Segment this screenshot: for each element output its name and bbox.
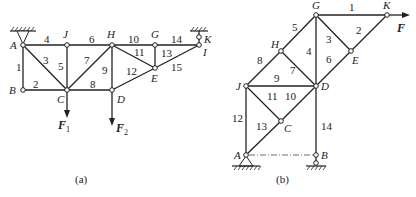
- label-a-C: C: [57, 93, 65, 105]
- node-b-D: [314, 84, 319, 89]
- mlabel-b-9: 9: [274, 72, 280, 84]
- label-a-A: A: [9, 39, 17, 51]
- mlabel-b-11: 11: [267, 90, 278, 102]
- mlabel-a-6: 6: [89, 33, 95, 45]
- label-a-K: K: [203, 33, 212, 45]
- mlabel-a-4: 4: [44, 33, 50, 45]
- node-b-K: [385, 13, 390, 18]
- figure-a: A J H G K I B C D E 1 2 3 4 5 6 7 8 9 10…: [9, 27, 212, 186]
- mlabel-a-14: 14: [171, 33, 183, 45]
- label-b-A: A: [233, 149, 241, 161]
- label-a-J: J: [63, 28, 69, 40]
- label-a-B: B: [9, 84, 16, 96]
- truss-figure: A J H G K I B C D E 1 2 3 4 5 6 7 8 9 10…: [0, 0, 416, 197]
- node-a-B: [21, 88, 26, 93]
- node-b-E: [349, 49, 354, 54]
- mlabel-b-13: 13: [256, 120, 268, 132]
- load-label-f2: F: [115, 121, 124, 135]
- mlabel-b-7: 7: [290, 64, 296, 76]
- mlabel-a-10: 10: [128, 33, 140, 45]
- member-b-3: [316, 15, 351, 51]
- node-a-J: [65, 43, 70, 48]
- caption-a: (a): [75, 173, 88, 186]
- label-b-J: J: [236, 80, 242, 92]
- load-labels-a: F 1 F 2: [57, 118, 128, 137]
- label-b-G: G: [312, 0, 320, 11]
- label-a-G: G: [151, 28, 159, 40]
- mlabel-a-2: 2: [33, 78, 39, 90]
- mlabel-b-10: 10: [285, 90, 297, 102]
- load-label-f1: F: [57, 118, 66, 132]
- node-b-H: [279, 49, 284, 54]
- mlabel-b-3: 3: [326, 33, 332, 45]
- node-b-A: [244, 153, 249, 158]
- node-b-B: [314, 153, 319, 158]
- node-labels-b: G K H E J D C A B: [233, 0, 391, 161]
- label-b-D: D: [320, 80, 329, 92]
- mlabel-a-8: 8: [90, 78, 96, 90]
- label-a-I: I: [202, 46, 208, 58]
- mlabel-a-13: 13: [161, 47, 173, 59]
- node-a-G: [153, 43, 158, 48]
- mlabel-a-5: 5: [58, 60, 64, 72]
- label-a-H: H: [106, 28, 116, 40]
- load-f-arrow: [387, 12, 410, 18]
- node-b-J: [244, 84, 249, 89]
- figure-b: G K H E J D C A B 1 2 3 4 5 6 7 8 9 10 1…: [232, 0, 410, 186]
- node-a-A: [21, 43, 26, 48]
- mlabel-b-8: 8: [257, 54, 263, 66]
- label-b-H: H: [270, 38, 280, 50]
- mlabel-b-4: 4: [306, 45, 312, 57]
- load-f2-arrow: [109, 90, 115, 126]
- mlabel-a-11: 11: [134, 46, 145, 58]
- label-b-E: E: [351, 54, 359, 66]
- node-b-G: [314, 13, 319, 18]
- mlabel-a-3: 3: [43, 54, 49, 66]
- mlabel-a-9: 9: [102, 64, 108, 76]
- load-label-f1-sub: 1: [66, 125, 70, 134]
- label-b-B: B: [321, 149, 328, 161]
- label-a-D: D: [116, 93, 125, 105]
- mlabel-a-12: 12: [126, 65, 137, 77]
- load-f1-arrow: [64, 90, 70, 118]
- mlabel-b-14: 14: [321, 120, 333, 132]
- label-b-C: C: [284, 122, 292, 134]
- node-b-C: [279, 119, 284, 124]
- mlabel-a-1: 1: [16, 61, 22, 73]
- mlabel-a-15: 15: [171, 61, 183, 73]
- label-a-E: E: [150, 72, 158, 84]
- node-a-I: [197, 43, 202, 48]
- mlabel-b-12: 12: [232, 112, 243, 124]
- mlabel-b-2: 2: [356, 24, 362, 36]
- mlabel-b-6: 6: [326, 53, 332, 65]
- node-a-D: [110, 88, 115, 93]
- mlabel-a-7: 7: [84, 54, 90, 66]
- node-a-E: [153, 66, 158, 71]
- load-label-f2-sub: 2: [124, 128, 128, 137]
- label-b-K: K: [382, 0, 391, 11]
- node-a-H: [110, 43, 115, 48]
- node-a-C: [65, 88, 70, 93]
- mlabel-b-5: 5: [292, 21, 298, 33]
- mlabel-b-1: 1: [349, 1, 355, 13]
- caption-b: (b): [276, 173, 289, 186]
- load-label-f: F: [396, 21, 405, 35]
